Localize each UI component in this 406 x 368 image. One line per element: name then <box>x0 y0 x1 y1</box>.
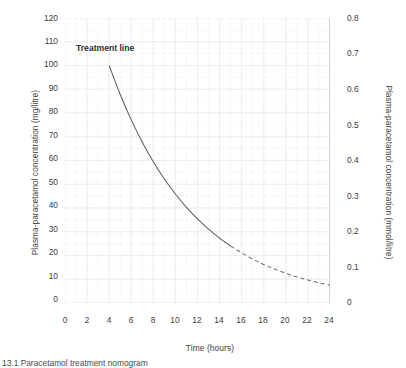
y-right-tick-0-8: 0.8 <box>347 13 377 23</box>
y-right-tick-0-4: 0.4 <box>347 155 377 165</box>
y-left-tick-120: 120 <box>28 13 58 23</box>
y-right-tick-0-6: 0.6 <box>347 84 377 94</box>
x-tick-16: 16 <box>229 315 253 325</box>
y-left-tick-110: 110 <box>28 36 58 46</box>
x-tick-24: 24 <box>317 315 341 325</box>
y-left-tick-90: 90 <box>28 83 58 93</box>
y-right-tick-0-3: 0.3 <box>347 191 377 201</box>
treatment-line-solid <box>109 66 230 247</box>
y-left-tick-60: 60 <box>28 153 58 163</box>
y-left-tick-10: 10 <box>28 271 58 281</box>
x-tick-20: 20 <box>273 315 297 325</box>
x-tick-0: 0 <box>53 315 77 325</box>
y-left-tick-30: 30 <box>28 224 58 234</box>
plot-svg <box>65 18 330 303</box>
treatment-line-annotation: Treatment line <box>76 43 134 53</box>
x-tick-2: 2 <box>75 315 99 325</box>
y-right-tick-0-1: 0.1 <box>347 262 377 272</box>
y-left-tick-100: 100 <box>28 59 58 69</box>
major-gridlines <box>65 18 330 303</box>
x-tick-4: 4 <box>97 315 121 325</box>
plot-area <box>65 18 330 303</box>
y-right-tick-0: 0 <box>347 297 377 307</box>
y-left-tick-0: 0 <box>28 294 58 304</box>
figure-caption: 13.1 Paracetamol treatment nomogram <box>2 358 148 368</box>
y-left-tick-20: 20 <box>28 247 58 257</box>
y-left-tick-40: 40 <box>28 200 58 210</box>
x-tick-8: 8 <box>141 315 165 325</box>
paracetamol-nomogram-figure: Plasma-paracetamol concentration (mg/lit… <box>0 0 406 368</box>
y-right-tick-0-5: 0.5 <box>347 120 377 130</box>
x-axis-title: Time (hours) <box>150 343 270 353</box>
y-left-tick-80: 80 <box>28 106 58 116</box>
x-tick-10: 10 <box>163 315 187 325</box>
y-right-tick-0-7: 0.7 <box>347 48 377 58</box>
x-tick-12: 12 <box>185 315 209 325</box>
x-tick-18: 18 <box>251 315 275 325</box>
y-right-tick-0-2: 0.2 <box>347 226 377 236</box>
x-tick-14: 14 <box>207 315 231 325</box>
x-tick-6: 6 <box>119 315 143 325</box>
y-left-tick-50: 50 <box>28 177 58 187</box>
y-axis-right-title: Plasma-paracetamol concentration (mmol/l… <box>384 53 393 293</box>
y-left-tick-70: 70 <box>28 130 58 140</box>
x-tick-22: 22 <box>295 315 319 325</box>
